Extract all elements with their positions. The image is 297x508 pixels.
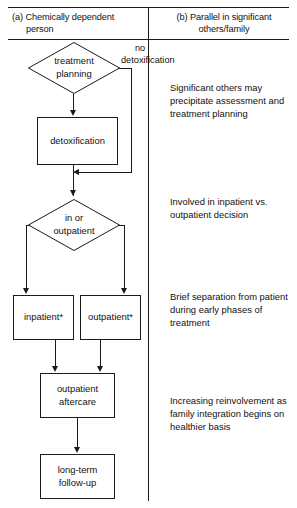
box-inpatient: inpatient* [13,295,74,340]
column-b-heading: (b) Parallel in significant others/famil… [158,11,290,35]
decision-treatment-planning: treatment planning [28,42,120,94]
column-divider [148,7,149,501]
box-outpatient-aftercare-line1: outpatient [57,383,98,394]
decision-in-or-outpatient: in or outpatient [28,199,120,251]
box-inpatient-label: inpatient* [24,311,63,324]
bypass-segment-bottom [78,172,132,173]
box-outpatient-aftercare: outpatient aftercare [40,373,115,418]
connector-inpatient-to-aftercare [55,340,56,367]
column-a-heading: (a) Chemically dependent person [12,11,144,35]
connector-decision-to-detox-arrow [70,110,76,116]
branch-left-vertical [26,225,27,289]
branch-right-arrow [121,288,127,294]
box-outpatient: outpatient* [80,295,141,340]
box-detoxification: detoxification [37,117,118,165]
edge-label-no: no [121,43,145,55]
box-long-term-followup-line1: long-term [58,464,98,475]
note-brief-separation: Brief separation from patient during ear… [170,291,292,329]
edge-label-detoxification: detoxification [121,55,175,65]
connector-inpatient-to-aftercare-arrow [52,366,58,372]
note-increasing-reinvolvement: Increasing reinvolvement as family integ… [170,395,292,433]
box-long-term-followup: long-term follow-up [40,454,115,499]
column-a-heading-line2: person [12,23,144,35]
connector-decision-to-detox [73,94,74,111]
column-b-heading-line1: (b) Parallel in significant [177,12,272,22]
box-outpatient-label: outpatient* [88,311,133,324]
note-involved-in-decision: Involved in inpatient vs. outpatient dec… [170,196,292,222]
connector-outpatient-to-aftercare [100,340,101,367]
note-significant-others: Significant others may precipitate asses… [170,82,292,120]
box-long-term-followup-line2: follow-up [59,477,97,488]
branch-left-arrow [23,288,29,294]
connector-aftercare-to-followup-arrow [74,447,80,453]
connector-outpatient-to-aftercare-arrow [97,366,103,372]
bypass-segment-vertical [131,68,132,173]
connector-aftercare-to-followup [77,418,78,448]
box-detoxification-label: detoxification [50,135,105,148]
column-a-heading-line1: (a) Chemically dependent [12,12,114,22]
branch-right-vertical [124,225,125,289]
connector-detox-to-setting-arrow [70,190,76,196]
edge-label-no-detoxification: no detoxification [121,43,175,66]
box-outpatient-aftercare-line2: aftercare [59,396,96,407]
flowchart-figure: (a) Chemically dependent person (b) Para… [0,0,297,508]
column-b-heading-line2: others/family [199,24,250,34]
